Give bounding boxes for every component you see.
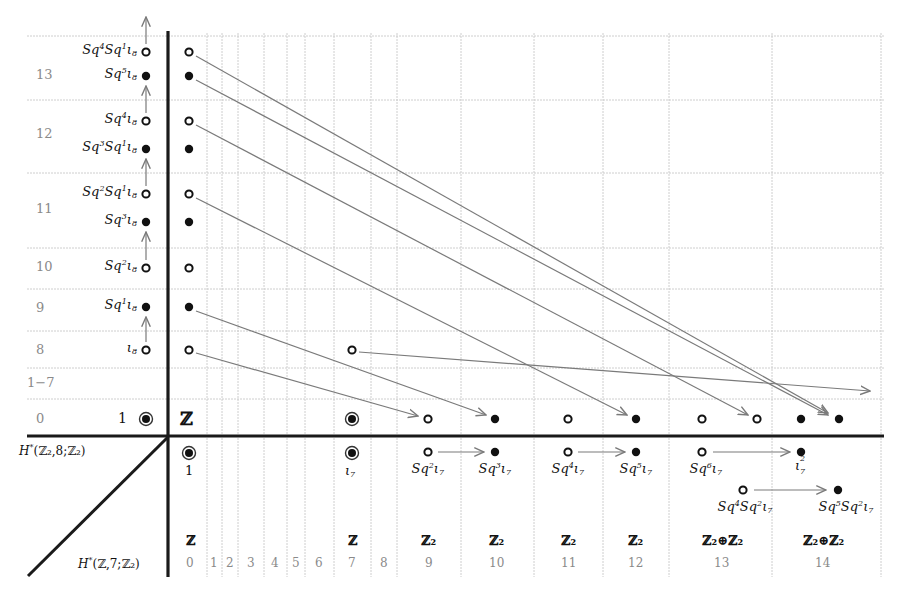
fiber-class-label: Sq4Sq1ι8 [82,42,137,58]
group-label: ℤ₂⊕ℤ₂ [702,533,743,548]
group-label: ℤ [186,533,196,548]
open-dot [753,415,760,422]
fiber-class-label: ι8 [127,340,137,356]
x-tick-label: 1 [210,556,218,570]
fiber-class-label: Sq2ι8 [104,258,137,274]
y-tick-label: 9 [36,300,44,315]
group-label: ℤ [348,533,358,548]
filled-dot [142,72,150,80]
x-tick-label: 14 [815,556,830,570]
base-class-label: Sq5Sq2ι7 [819,499,874,515]
filled-dot [142,218,150,226]
open-dot [185,190,192,197]
y-tick-label: 8 [36,342,44,357]
filled-dot [142,145,150,153]
x-tick-label: 3 [247,556,255,570]
filled-dot [185,145,193,153]
open-dot [142,190,149,197]
open-dot [424,415,431,422]
y-tick-label: 0 [36,411,44,426]
filled-dot [185,218,193,226]
group-label: ℤ₂ [628,533,643,548]
open-dot [185,346,192,353]
x-tick-label: 6 [315,556,323,570]
base-class-label: Sq5ι7 [620,461,653,477]
y-tick-label: 1−7 [27,375,54,390]
y-tick-label: 10 [36,259,53,274]
y-tick-label: 11 [36,201,53,216]
open-dot [185,117,192,124]
x-tick-label: 8 [380,556,388,570]
base-class-label: Sq3ι7 [479,461,512,477]
open-dot [698,448,705,455]
filled-dot [632,448,640,456]
x-tick-label: 0 [186,556,194,570]
grid-vertical [207,33,881,577]
base-class-label: Sq6ι7 [690,461,723,477]
filled-dot [142,303,150,311]
row-0-dots [424,415,843,423]
x-tick-label: 10 [489,556,504,570]
filled-dot [491,448,499,456]
open-dot [698,415,705,422]
column-0-dots [185,48,193,353]
group-label: ℤ₂⊕ℤ₂ [803,533,844,548]
x-tick-label: 12 [628,556,643,570]
x-tick-label: 5 [292,556,300,570]
iota7-label: ι7 [345,463,355,479]
base-axis-title: H*(ℤ,7;ℤ₂) [78,556,140,571]
x-tick-label: 13 [714,556,729,570]
open-dot [142,48,149,55]
fiber-class-label: Sq3Sq1ι8 [82,139,137,155]
fiber-class-label: Sq3ι8 [104,212,137,228]
x-tick-label: 9 [425,556,433,570]
filled-dot [632,415,640,423]
x-tick-label: 7 [348,556,356,570]
group-label: ℤ₂ [489,533,504,548]
y-tick-label: 12 [36,126,53,141]
fiber-class-label: Sq2Sq1ι8 [82,184,137,200]
open-dot [739,486,746,493]
open-dot [564,415,571,422]
group-label: ℤ₂ [421,533,436,548]
group-label: ℤ₂ [561,533,576,548]
filled-dot [491,415,499,423]
x-tick-label: 11 [561,556,576,570]
fiber-class-label: Sq5ι8 [104,66,137,82]
open-dot [424,448,431,455]
base-one-label: 1 [185,463,193,478]
fiber-class-label: Sq1ι8 [104,297,137,313]
iota7-squared-label: ι27 [795,458,800,473]
filled-dot [835,415,843,423]
open-dot [142,264,149,271]
open-dot [142,117,149,124]
fiber-class-label: Sq4ι8 [104,111,137,127]
base-class-label: Sq4Sq2ι7 [718,499,773,515]
fiber-axis-title: H*(ℤ₂,8;ℤ₂) [19,443,85,458]
filled-dot [797,415,805,423]
open-dot [185,264,192,271]
base-class-label: Sq4ι7 [552,461,585,477]
unit-label: 1 [118,410,127,426]
open-dot [185,48,192,55]
filled-dot [834,486,842,494]
open-dot [348,346,355,353]
x-tick-label: 2 [226,556,234,570]
open-dot [564,448,571,455]
x-tick-label: 4 [271,556,279,570]
filled-dot [185,72,193,80]
differential-arrows [196,56,870,416]
axes [27,31,884,577]
base-class-label: Sq2ι7 [412,461,445,477]
open-dot [142,346,149,353]
z-generator-label: ℤ [180,408,193,429]
filled-dot [185,303,193,311]
y-tick-label: 13 [36,67,53,82]
